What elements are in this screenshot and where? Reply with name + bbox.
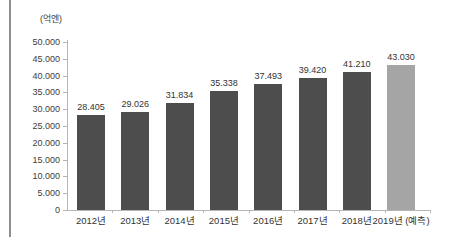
y-axis-unit-label: (억엔) bbox=[40, 12, 62, 25]
y-axis-tick-label: 30.000 bbox=[26, 104, 60, 114]
y-axis-tick-label: 25.000 bbox=[26, 121, 60, 131]
bar-2012년 bbox=[77, 115, 105, 210]
bar-value-label: 29.026 bbox=[105, 99, 165, 109]
x-axis-tick bbox=[294, 210, 295, 213]
y-axis-tick bbox=[63, 176, 67, 177]
x-axis-tick bbox=[112, 210, 113, 213]
y-axis-tick bbox=[63, 160, 67, 161]
bar-2014년 bbox=[166, 103, 194, 210]
y-axis-tick bbox=[63, 59, 67, 60]
y-axis-tick bbox=[63, 92, 67, 93]
bar-2015년 bbox=[210, 91, 238, 210]
bar-2016년 bbox=[254, 84, 282, 210]
y-axis-tick-label: 40.000 bbox=[26, 71, 60, 81]
y-axis-tick-label: 50.000 bbox=[26, 37, 60, 47]
bar-2019년 (예측) bbox=[387, 65, 415, 210]
y-axis-tick-label: 5.000 bbox=[26, 188, 60, 198]
bar-2018년 bbox=[343, 72, 371, 210]
y-axis-tick-label: 15.000 bbox=[26, 155, 60, 165]
bar-chart-screenshot: (억엔) 05.00010.00015.00020.00025.00030.00… bbox=[0, 0, 450, 237]
y-axis-tick bbox=[63, 42, 67, 43]
y-axis-tick-label: 10.000 bbox=[26, 171, 60, 181]
y-axis-tick-label: 20.000 bbox=[26, 138, 60, 148]
y-axis-tick bbox=[63, 143, 67, 144]
x-axis-category-label: 2019년 (예측) bbox=[361, 215, 441, 226]
x-axis-tick bbox=[339, 210, 340, 213]
y-axis-tick-label: 0 bbox=[26, 205, 60, 215]
x-axis-tick bbox=[249, 210, 250, 213]
x-axis-tick bbox=[430, 210, 431, 213]
y-axis-line bbox=[67, 40, 68, 211]
y-axis-tick-label: 45.000 bbox=[26, 54, 60, 64]
bar-value-label: 31.834 bbox=[150, 90, 210, 100]
y-axis-tick bbox=[63, 126, 67, 127]
bar-2017년 bbox=[299, 78, 327, 210]
left-border-line bbox=[9, 0, 11, 237]
y-axis-tick bbox=[63, 76, 67, 77]
x-axis-tick bbox=[158, 210, 159, 213]
y-axis-tick bbox=[63, 210, 67, 211]
bar-2013년 bbox=[121, 112, 149, 210]
y-axis-tick bbox=[63, 193, 67, 194]
bar-value-label: 43.030 bbox=[371, 52, 431, 62]
y-axis-tick-label: 35.000 bbox=[26, 87, 60, 97]
x-axis-tick bbox=[385, 210, 386, 213]
x-axis-tick bbox=[203, 210, 204, 213]
